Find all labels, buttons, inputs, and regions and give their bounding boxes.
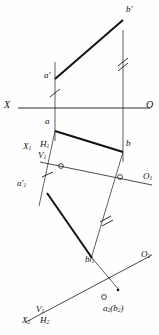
aux2-plane-upper-label: V1 [36,305,44,315]
tick-b1-double-1 [100,216,111,222]
object-lines-group [47,20,123,258]
projection-drawing [0,0,159,335]
aux1-view-line [47,193,92,258]
aux1-plane-upper-label: H1 [40,140,49,150]
tick-b1-double-2 [102,220,113,226]
point-label-a-top: a [45,117,50,126]
aux1-axis-far-label: O1 [143,172,152,182]
aux2-axis-far-label: O2 [141,250,150,260]
point-label-ab2-aux: a2(b2) [103,304,124,314]
point-label-b1-aux: b'1 [85,255,94,265]
aux2-axis-line [26,255,152,322]
projector-lines-group [39,30,123,290]
aux1-axis-line [40,162,152,185]
front-view-line [55,20,123,79]
axis-label-o: O [146,100,153,110]
aux2-axis-group [26,255,152,322]
top-view-line [55,131,123,152]
projector-b-aux1 [90,152,123,262]
point-label-a1-aux: a'1 [17,179,26,189]
aux1-plane-lower-label: V1 [38,151,46,161]
aux2-plane-lower-label: H2 [40,316,49,326]
aux1-axis-origin-label: X1 [23,142,31,152]
drawing-canvas: X O a' b' a b X1 H1 V1 O1 a'1 b'1 X2 V1 … [0,0,159,335]
axis-label-x: X [4,100,10,110]
point-label-b-front: b' [126,5,132,14]
point-label-a-front: a' [44,71,50,80]
origin-circle-aux2 [102,295,107,300]
point-ab2-dot [117,289,120,292]
aux2-axis-origin-label: X2 [22,316,30,326]
aux1-axis-group [40,162,152,185]
tick-a1-single [42,172,53,177]
point-label-b-top: b [126,139,131,148]
